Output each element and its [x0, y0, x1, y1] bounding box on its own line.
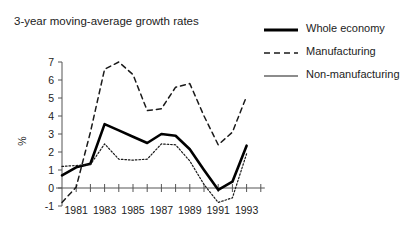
x-tick-label: 1993	[235, 204, 259, 216]
legend-label-manufacturing: Manufacturing	[306, 45, 376, 57]
legend-label-whole-economy: Whole economy	[306, 22, 385, 34]
y-tick-label: 3	[48, 128, 54, 140]
series-line-non-manufacturing	[62, 144, 247, 203]
legend-label-non-manufacturing: Non-manufacturing	[306, 68, 400, 80]
y-tick-label: 5	[48, 92, 54, 104]
x-tick-label: 1981	[65, 204, 89, 216]
x-tick-label: 1983	[93, 204, 117, 216]
legend-item-non-manufacturing: Non-manufacturing	[263, 68, 400, 80]
legend-item-manufacturing: Manufacturing	[263, 45, 376, 57]
y-axis-title: %	[16, 137, 28, 146]
series-line-manufacturing	[62, 62, 247, 202]
x-tick-label: 1987	[150, 204, 174, 216]
y-tick-label: -1	[45, 200, 54, 212]
y-tick-label: 7	[48, 56, 54, 68]
x-tick-label: 1989	[178, 204, 202, 216]
legend-item-whole-economy: Whole economy	[263, 22, 385, 34]
x-tick-label: 1991	[207, 204, 231, 216]
chart-plot: -101234567 1981198319851987198919911993 …	[0, 0, 408, 237]
y-tick-label: 4	[48, 110, 54, 122]
y-tick-label: 0	[48, 182, 54, 194]
y-tick-label: 6	[48, 74, 54, 86]
x-tick-label: 1985	[121, 204, 145, 216]
chart-container: 3-year moving-average growth rates -1012…	[0, 0, 408, 237]
legend-swatch-dashed	[263, 45, 299, 57]
y-tick-label: 1	[48, 164, 54, 176]
legend-swatch-solid-thick	[263, 22, 299, 34]
x-axis-ticks: 1981198319851987198919911993	[65, 184, 261, 216]
chart-series	[62, 62, 247, 202]
legend-swatch-dotted	[263, 68, 299, 80]
y-tick-label: 2	[48, 146, 54, 158]
